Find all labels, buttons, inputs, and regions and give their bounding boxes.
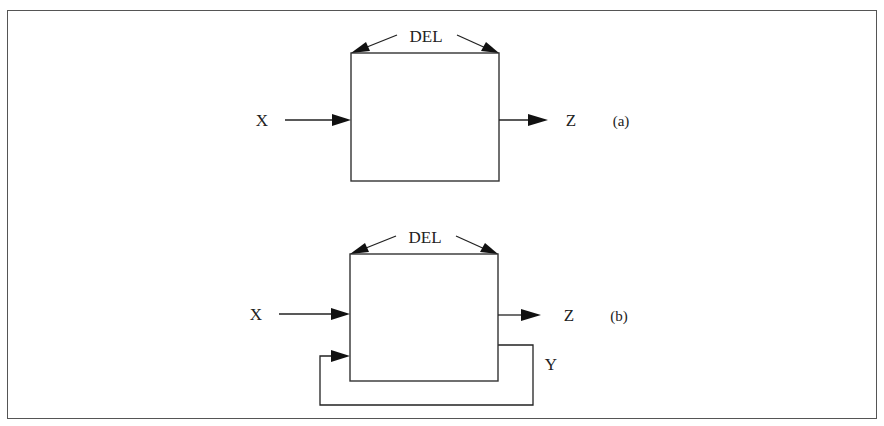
output-label-a: Z (566, 111, 576, 130)
del-arrow-right-icon (457, 35, 499, 53)
input-arrow-a-icon (285, 114, 351, 126)
del-arrow-left-icon (351, 35, 397, 53)
output-arrow-a-icon (499, 114, 548, 126)
output-label-b: Z (564, 306, 574, 325)
del-arrow-right-icon (456, 236, 498, 254)
input-label-b: X (250, 305, 262, 324)
output-arrow-b-icon (498, 309, 541, 321)
del-label-b: DEL (408, 228, 441, 247)
del-label-a: DEL (409, 27, 442, 46)
panel-b: DEL X Z Y (b) (250, 228, 628, 405)
feedback-label: Y (545, 355, 557, 374)
block-diagram: DEL X Z (a) DE (0, 0, 884, 426)
panel-a: DEL X Z (a) (256, 27, 629, 181)
panel-tag-a: (a) (613, 113, 630, 130)
feedback-arrow-icon (331, 350, 350, 362)
delay-block-a (351, 53, 499, 181)
del-arrow-left-icon (350, 236, 396, 254)
input-label-a: X (256, 111, 268, 130)
panel-tag-b: (b) (610, 308, 628, 325)
delay-block-b (350, 254, 498, 381)
input-arrow-b-icon (279, 308, 350, 320)
